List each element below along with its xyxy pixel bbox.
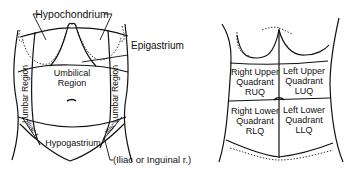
rlq-label-line1: Right Lower <box>231 106 279 116</box>
rlq-label-line2: Quadrant <box>236 116 274 126</box>
ruq-abbr: RUQ <box>245 87 265 97</box>
ruq-label-line2: Quadrant <box>236 77 274 87</box>
umbilical-label-line1: Umbilical <box>54 68 91 78</box>
llq-abbr: LLQ <box>295 125 312 135</box>
costal-top-arc <box>20 28 128 37</box>
rlq-abbr: RLQ <box>246 126 265 136</box>
sternum-notch <box>67 23 77 30</box>
ruq-label-line1: Right Upper <box>231 67 279 77</box>
hypochondrium-label: Hypochondrium <box>35 8 109 20</box>
four-quadrants-figure: Right Upper Quadrant RUQ Left Upper Quad… <box>219 18 343 162</box>
llq-label-line1: Left Lower <box>283 105 325 115</box>
torso-left-outline <box>12 30 18 160</box>
luq-abbr: LUQ <box>295 86 314 96</box>
lumbar-right-label: Lumbar Region <box>110 65 120 123</box>
quad-top-dotted-right <box>279 28 292 34</box>
iliac-inguinal-label: (Iliac or Inguinal r.) <box>113 154 191 165</box>
iliac-inguinal-leader <box>104 137 113 160</box>
nine-regions-figure: Hypochondrium Epigastrium Umbilical Regi… <box>12 8 191 165</box>
left-costal-margin <box>50 30 67 66</box>
epigastrium-label: Epigastrium <box>131 40 184 51</box>
right-rib-dotted <box>78 32 121 60</box>
quad-torso-right-outline <box>330 18 343 162</box>
umbilical-label-line2: Region <box>58 78 87 88</box>
llq-label-line2: Quadrant <box>285 115 323 125</box>
luq-label-line1: Left Upper <box>283 66 325 76</box>
quad-left-rib-arc <box>237 30 279 58</box>
lumbar-left-label: Lumbar Region <box>20 65 30 123</box>
umbilicus <box>67 100 76 102</box>
abdominal-regions-diagram: Hypochondrium Epigastrium Umbilical Regi… <box>0 0 349 173</box>
quad-right-rib-arc <box>279 30 329 55</box>
luq-label-line2: Quadrant <box>285 76 323 86</box>
quad-top-dotted-left <box>262 27 279 30</box>
hypogastrium-label: Hypogastrium <box>45 138 101 148</box>
quad-lower-dotted <box>230 148 333 160</box>
